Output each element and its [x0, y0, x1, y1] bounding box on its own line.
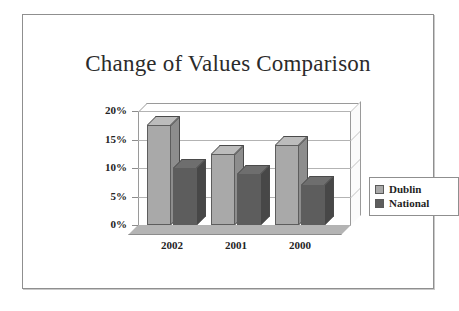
bar-national-2001[interactable]	[237, 174, 261, 225]
bar-front-face	[173, 168, 197, 225]
bar-front-face	[301, 185, 325, 225]
ytick-mark-20	[132, 111, 138, 112]
legend-swatch-national	[375, 199, 384, 208]
bar-dublin-2001[interactable]	[211, 154, 235, 225]
bar-side-face	[261, 165, 270, 225]
chart-title: Change of Values Comparison	[23, 51, 433, 77]
bar-side-face	[197, 159, 206, 225]
bar-front-face	[275, 145, 299, 225]
bar-front-face	[147, 125, 171, 225]
ytick-label-5: 5%	[67, 190, 127, 202]
slide-frame: Change of Values Comparison 20% 15% 10% …	[22, 14, 434, 289]
ytick-mark-15	[132, 140, 138, 141]
xtick-label-2002: 2002	[137, 239, 207, 251]
ytick-label-10: 10%	[67, 161, 127, 173]
gridline-0	[138, 225, 351, 226]
ytick-label-20: 20%	[67, 104, 127, 116]
ytick-mark-5	[132, 197, 138, 198]
legend-swatch-dublin	[375, 185, 384, 194]
legend-label-national: National	[389, 197, 429, 209]
plot-floor	[128, 225, 351, 235]
ytick-label-0: 0%	[67, 218, 127, 230]
bar-dublin-2002[interactable]	[147, 125, 171, 225]
ytick-label-15: 15%	[67, 133, 127, 145]
chart-legend: Dublin National	[369, 177, 459, 216]
xtick-label-2000: 2000	[265, 239, 335, 251]
bar-national-2000[interactable]	[301, 185, 325, 225]
legend-item-national[interactable]: National	[375, 196, 453, 210]
ytick-mark-10	[132, 168, 138, 169]
bar-national-2002[interactable]	[173, 168, 197, 225]
gridline-20	[138, 111, 351, 112]
chart-area: 20% 15% 10% 5% 0%	[63, 103, 423, 263]
bar-dublin-2000[interactable]	[275, 145, 299, 225]
bar-front-face	[211, 154, 235, 225]
ytick-mark-0	[132, 225, 138, 226]
bar-front-face	[237, 174, 261, 225]
legend-label-dublin: Dublin	[389, 183, 421, 195]
xtick-label-2001: 2001	[201, 239, 271, 251]
legend-item-dublin[interactable]: Dublin	[375, 182, 453, 196]
